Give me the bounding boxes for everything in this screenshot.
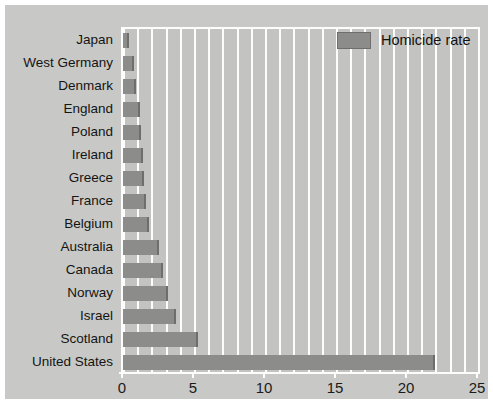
gridline — [222, 29, 224, 374]
legend-label-homicide-rate: Homicide rate — [381, 32, 470, 48]
gridline — [293, 29, 295, 374]
y-label-west-germany: West Germany — [9, 54, 113, 69]
gridline — [379, 29, 381, 374]
chart-canvas: JapanWest GermanyDenmarkEnglandPolandIre… — [5, 5, 488, 399]
y-label-belgium: Belgium — [9, 215, 113, 230]
x-axis-line — [119, 372, 478, 374]
gridline — [336, 29, 338, 374]
gridline — [435, 29, 437, 374]
plot-area — [121, 27, 480, 374]
y-label-japan: Japan — [9, 31, 113, 46]
bar-belgium — [123, 217, 149, 231]
gridline — [393, 29, 395, 374]
gridline — [279, 29, 281, 374]
y-label-greece: Greece — [9, 169, 113, 184]
x-tick — [263, 372, 265, 378]
bar-japan — [123, 33, 129, 47]
x-tick-label-25: 25 — [469, 379, 486, 396]
gridline — [450, 29, 452, 374]
y-label-ireland: Ireland — [9, 146, 113, 161]
bar-ireland — [123, 148, 143, 162]
x-tick — [121, 372, 123, 378]
y-label-france: France — [9, 192, 113, 207]
bar-england — [123, 102, 140, 116]
x-tick — [476, 372, 478, 378]
gridline — [421, 29, 423, 374]
y-label-poland: Poland — [9, 123, 113, 138]
bar-israel — [123, 309, 176, 323]
gridline — [478, 29, 480, 374]
bar-united-states — [123, 355, 435, 369]
y-label-united-states: United States — [9, 353, 113, 368]
y-label-australia: Australia — [9, 238, 113, 253]
chart-legend: Homicide rate — [337, 29, 470, 51]
gridline — [251, 29, 253, 374]
bar-denmark — [123, 79, 136, 93]
gridline — [364, 29, 366, 374]
x-tick-label-20: 20 — [398, 379, 415, 396]
bar-scotland — [123, 332, 198, 346]
gridline — [180, 29, 182, 374]
y-label-israel: Israel — [9, 307, 113, 322]
y-label-england: England — [9, 100, 113, 115]
bar-australia — [123, 240, 159, 254]
bar-poland — [123, 125, 141, 139]
gridline — [194, 29, 196, 374]
gridline — [350, 29, 352, 374]
x-tick-label-5: 5 — [189, 379, 197, 396]
bar-greece — [123, 171, 144, 185]
y-label-canada: Canada — [9, 261, 113, 276]
y-label-scotland: Scotland — [9, 330, 113, 345]
gridline — [237, 29, 239, 374]
bar-france — [123, 194, 146, 208]
y-label-norway: Norway — [9, 284, 113, 299]
y-axis-category-labels: JapanWest GermanyDenmarkEnglandPolandIre… — [5, 5, 113, 399]
gridline — [308, 29, 310, 374]
gridline — [265, 29, 267, 374]
x-tick-label-0: 0 — [118, 379, 126, 396]
x-tick — [192, 372, 194, 378]
x-tick — [334, 372, 336, 378]
gridline — [464, 29, 466, 374]
plot-inner — [123, 29, 478, 374]
x-tick-label-10: 10 — [256, 379, 273, 396]
x-tick-label-15: 15 — [327, 379, 344, 396]
x-tick — [405, 372, 407, 378]
bar-canada — [123, 263, 163, 277]
bar-west-germany — [123, 56, 134, 70]
gridline — [208, 29, 210, 374]
y-label-denmark: Denmark — [9, 77, 113, 92]
gridline — [407, 29, 409, 374]
chart-figure: JapanWest GermanyDenmarkEnglandPolandIre… — [0, 0, 493, 404]
gridline — [322, 29, 324, 374]
legend-swatch-homicide-rate — [337, 32, 371, 49]
bar-norway — [123, 286, 168, 300]
